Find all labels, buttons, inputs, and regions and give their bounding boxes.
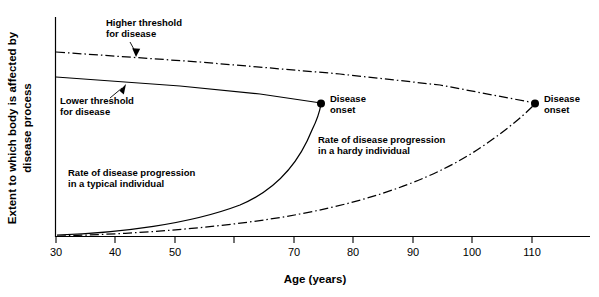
annotation-disease-onset-left-line2: onset [330,104,356,115]
annotation-disease-onset-right: Disease onset [544,93,580,115]
x-axis-ticks [56,237,532,244]
y-axis-label-line1: Extent to which body is affected by [6,31,18,224]
annotation-hardy-rate: Rate of disease progression in a hardy i… [318,134,445,156]
annotation-lower-threshold-line1: Lower threshold [60,95,134,106]
data-point-disease-onset-left [317,100,325,108]
data-point-disease-onset-right [531,100,539,108]
arrow-down-icon [132,48,140,57]
annotation-higher-threshold-line1: Higher threshold [106,17,182,28]
annotation-lower-threshold: Lower threshold for disease [60,84,134,117]
x-axis-title: Age (years) [284,273,347,285]
annotation-typical-rate-line2: in a typical individual [68,178,164,189]
y-axis-label: Extent to which body is affected by dise… [6,31,33,224]
annotation-typical-rate: Rate of disease progression in a typical… [68,167,195,189]
x-ticklabel-70: 70 [288,246,300,258]
x-ticklabel-50: 50 [169,246,181,258]
annotation-lower-threshold-line2: for disease [60,106,110,117]
annotation-higher-threshold-line2: for disease [106,28,156,39]
annotation-disease-onset-right-line2: onset [544,104,570,115]
annotation-hardy-rate-line1: Rate of disease progression [318,134,445,145]
y-axis-label-line2: disease process [21,83,33,173]
annotation-disease-onset-right-line1: Disease [544,93,580,104]
annotation-hardy-rate-line2: in a hardy individual [318,145,410,156]
annotation-disease-onset-left: Disease onset [330,93,366,115]
x-axis-tick-labels: 30 40 50 70 80 90 100 110 [50,246,541,258]
annotation-disease-onset-left-line1: Disease [330,93,366,104]
chart-svg: Extent to which body is affected by dise… [0,0,599,297]
x-ticklabel-40: 40 [109,246,121,258]
annotation-typical-rate-line1: Rate of disease progression [68,167,195,178]
x-ticklabel-30: 30 [50,246,62,258]
x-ticklabel-80: 80 [347,246,359,258]
annotation-higher-threshold: Higher threshold for disease [106,17,182,57]
x-ticklabel-100: 100 [463,246,481,258]
chart-figure: Extent to which body is affected by dise… [0,0,599,297]
x-ticklabel-90: 90 [407,246,419,258]
x-ticklabel-110: 110 [523,246,541,258]
